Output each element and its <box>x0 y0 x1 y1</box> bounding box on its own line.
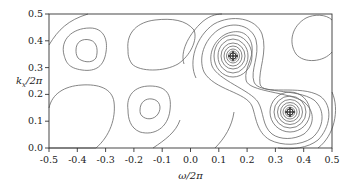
y-tick-label: 0.2 <box>28 88 43 99</box>
y-axis: 0.0 0.1 0.2 0.3 0.4 0.5 kx/2π <box>16 8 49 153</box>
x-tick-label: -0.3 <box>96 154 114 165</box>
x-tick-label: -0.2 <box>125 154 143 165</box>
y-axis-label-rest: /2π <box>25 75 43 86</box>
x-tick-label: 0.1 <box>211 154 226 165</box>
x-tick-label: 0.3 <box>268 154 283 165</box>
x-tick-label: -0.1 <box>153 154 171 165</box>
x-tick-label: -0.5 <box>40 154 58 165</box>
contour-plot: -0.5 -0.4 -0.3 -0.2 -0.1 0.0 0.1 0.2 0.3… <box>0 0 353 191</box>
x-axis-label: ω/2π <box>178 170 203 181</box>
x-tick-label: 0.4 <box>296 154 311 165</box>
x-axis: -0.5 -0.4 -0.3 -0.2 -0.1 0.0 0.1 0.2 0.3… <box>40 148 340 181</box>
x-tick-label: -0.4 <box>68 154 86 165</box>
x-tick-label: 0.5 <box>324 154 339 165</box>
y-tick-label: 0.1 <box>28 115 43 126</box>
x-tick-label: 0.0 <box>183 154 198 165</box>
y-axis-label: kx/2π <box>16 75 43 89</box>
y-tick-label: 0.3 <box>28 62 43 73</box>
y-tick-label: 0.5 <box>28 8 43 19</box>
y-tick-label: 0.0 <box>28 142 43 153</box>
y-tick-label: 0.4 <box>28 35 43 46</box>
x-tick-label: 0.2 <box>240 154 255 165</box>
contour-lines <box>49 14 336 149</box>
